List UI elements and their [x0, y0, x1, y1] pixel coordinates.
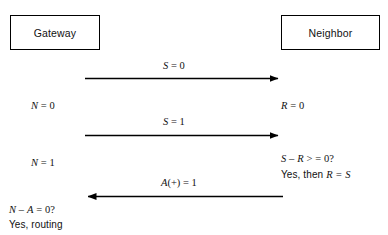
message-label-1: S = 0 [163, 60, 185, 71]
message-2-value: 1 [179, 116, 184, 127]
node-gateway-label: Gateway [34, 27, 77, 39]
neighbor-note-result-prefix: Yes, then [281, 169, 326, 180]
neighbor-note-result-operator: = [333, 169, 346, 180]
node-neighbor: Neighbor [281, 15, 380, 50]
message-2-operator: = [168, 116, 179, 127]
neighbor-note-check-operator-3: = [315, 153, 324, 164]
neighbor-note-result-variable-2: S [345, 169, 350, 180]
node-gateway: Gateway [10, 15, 100, 50]
message-label-3: A(+) = 1 [161, 177, 197, 188]
node-neighbor-label: Neighbor [309, 27, 353, 39]
gateway-note-n1: N = 1 [31, 157, 55, 168]
gateway-note-n0: N = 0 [31, 100, 55, 111]
neighbor-note-r0: R = 0 [281, 100, 304, 111]
neighbor-note-check-value: 0? [324, 153, 334, 164]
neighbor-note-result: Yes, then R = S [281, 169, 351, 180]
gateway-note-check-value: 0? [45, 204, 55, 215]
gateway-note-n0-operator: = [38, 100, 49, 111]
neighbor-note-r0-value: 0 [299, 100, 304, 111]
sequence-diagram: Gateway Neighbor S = 0 S = 1 A(+) = 1 N … [0, 0, 388, 235]
gateway-note-check-operator-1: – [16, 204, 27, 215]
neighbor-note-check-operator-2: > [304, 153, 315, 164]
gateway-note-n0-value: 0 [50, 100, 55, 111]
gateway-note-n1-operator: = [38, 157, 49, 168]
message-1-operator: = [168, 60, 179, 71]
neighbor-note-r0-operator: = [288, 100, 299, 111]
gateway-note-check-operator-2: = [33, 204, 44, 215]
gateway-note-check: N – A = 0? [9, 204, 55, 215]
gateway-note-routing: Yes, routing [9, 219, 63, 230]
neighbor-note-check-operator-1: – [286, 153, 297, 164]
neighbor-note-check: S – R > = 0? [281, 153, 334, 164]
message-3-operator: (+) = [167, 177, 191, 188]
gateway-note-n1-value: 1 [50, 157, 55, 168]
message-1-value: 0 [179, 60, 184, 71]
message-3-value: 1 [192, 177, 197, 188]
message-label-2: S = 1 [163, 116, 185, 127]
